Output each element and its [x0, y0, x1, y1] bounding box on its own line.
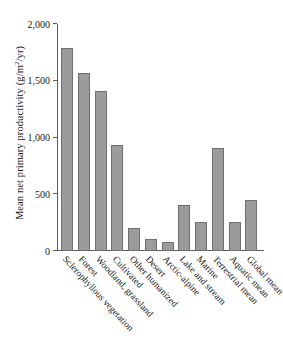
y-axis-line [57, 24, 58, 251]
bar [145, 239, 157, 251]
bar [195, 222, 207, 252]
y-axis-tick-label: 2,000 [28, 18, 51, 29]
x-axis-tick-labels: Sclerophyllous vegetationForestWoodland,… [57, 254, 283, 348]
y-axis-tick: 1,000 [53, 137, 57, 138]
y-axis-title-text: Mean net primary productivity (g/m2/yr) [13, 46, 26, 220]
y-axis-tick: 0 [53, 250, 57, 251]
chart-figure: Mean net primary productivity (g/m2/yr) … [0, 0, 283, 348]
y-axis-tick: 2,000 [53, 23, 57, 24]
bar [111, 145, 123, 251]
bar [245, 200, 257, 251]
y-axis-tick: 1,500 [53, 80, 57, 81]
bar [162, 242, 174, 251]
plot-area: 05001,0001,5002,000 [57, 24, 264, 251]
y-axis-title-main: Mean net primary productivity (g/m [14, 65, 25, 220]
bar [78, 73, 90, 251]
y-axis-tick-label: 1,000 [28, 132, 51, 143]
bar [95, 91, 107, 251]
y-axis-tick-label: 0 [45, 245, 50, 256]
bar [229, 222, 241, 252]
bar [212, 148, 224, 251]
y-axis-tick-label: 1,500 [28, 75, 51, 86]
y-axis-title-exponent: 2 [13, 61, 21, 65]
bar [128, 228, 140, 251]
bar [178, 205, 190, 251]
bar [61, 48, 73, 251]
y-axis-tick: 500 [53, 193, 57, 194]
y-axis-tick-label: 500 [35, 188, 50, 199]
y-axis-title-tail: /yr) [14, 46, 25, 62]
